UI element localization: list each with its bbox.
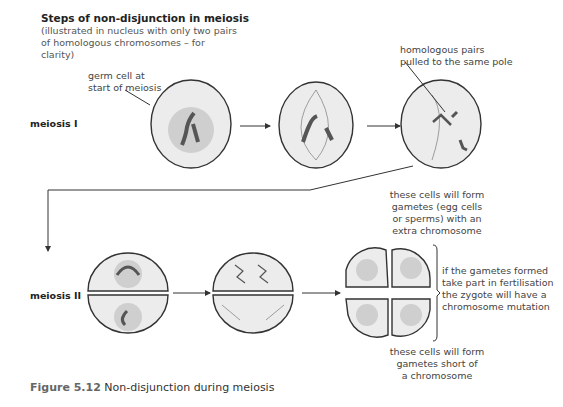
meiosis-diagram [0, 0, 563, 407]
